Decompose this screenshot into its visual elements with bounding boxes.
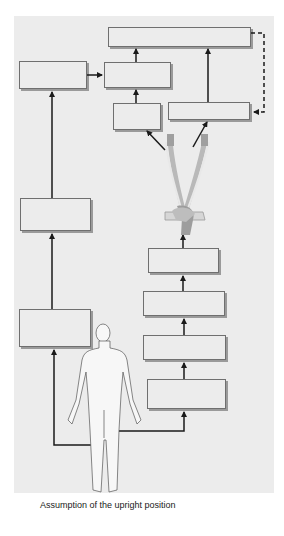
- arrow-vessel-to-center-small: [147, 131, 165, 150]
- human-body-icon: [68, 324, 141, 492]
- dashed-feedback-arrow: [251, 33, 264, 112]
- connector-arrows: [0, 0, 284, 536]
- arrow-body-to-stack4: [113, 412, 184, 431]
- carotid-artery-icon: [165, 134, 209, 235]
- figure-caption: Assumption of the upright position: [40, 500, 176, 510]
